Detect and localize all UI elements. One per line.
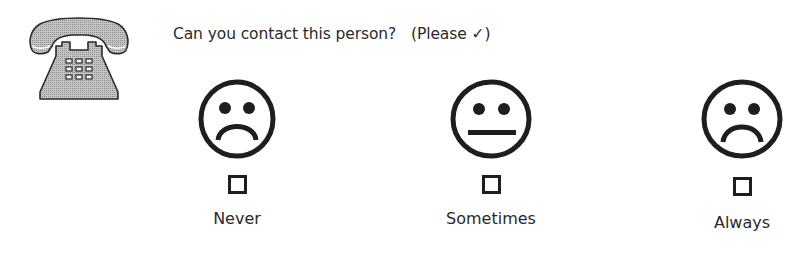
option-always[interactable]: Always (672, 78, 812, 232)
never-checkbox[interactable] (228, 175, 247, 194)
option-never[interactable]: Never (167, 78, 307, 228)
sad-face-icon (196, 78, 278, 160)
telephone-icon (26, 12, 132, 102)
question-prompt: Can you contact this person? (Please ✓) (173, 25, 490, 43)
always-checkbox[interactable] (733, 177, 752, 196)
sad-face-icon (701, 78, 783, 160)
neutral-face-icon (450, 78, 532, 160)
never-label: Never (213, 209, 261, 228)
sometimes-label: Sometimes (446, 209, 536, 228)
option-sometimes[interactable]: Sometimes (421, 78, 561, 228)
question-text: Can you contact this person? (173, 25, 396, 43)
sometimes-checkbox[interactable] (482, 175, 501, 194)
always-label: Always (714, 213, 770, 232)
question-hint: (Please ✓) (411, 25, 490, 43)
